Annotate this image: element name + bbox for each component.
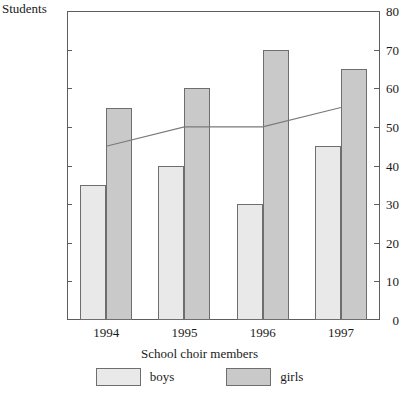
chart-legend: boysgirls bbox=[0, 368, 399, 386]
bar-girls-1996 bbox=[263, 50, 289, 320]
y-tick-mark bbox=[374, 11, 379, 12]
bar-girls-1997 bbox=[341, 69, 367, 320]
y-tick-mark bbox=[374, 281, 379, 282]
legend-entry-girls: girls bbox=[226, 368, 303, 386]
legend-label-boys: boys bbox=[150, 370, 175, 384]
bar-boys-1995 bbox=[158, 166, 184, 321]
bar-girls-1995 bbox=[184, 88, 210, 320]
x-tick-label-1995: 1995 bbox=[171, 326, 197, 340]
y-tick-mark bbox=[374, 166, 379, 167]
legend-swatch-girls bbox=[226, 368, 271, 386]
y-tick-mark bbox=[374, 88, 379, 89]
y-tick-mark bbox=[374, 127, 379, 128]
y-tick-mark bbox=[67, 204, 72, 205]
y-axis-title: Students bbox=[2, 2, 47, 16]
legend-swatch-boys bbox=[96, 368, 141, 386]
y-tick-mark bbox=[374, 50, 379, 51]
bar-girls-1994 bbox=[106, 108, 132, 320]
y-tick-mark bbox=[67, 127, 72, 128]
x-tick-label-1997: 1997 bbox=[328, 326, 354, 340]
y-tick-mark bbox=[67, 11, 72, 12]
y-tick-mark bbox=[67, 166, 72, 167]
bar-boys-1996 bbox=[237, 204, 263, 320]
bar-boys-1997 bbox=[315, 146, 341, 320]
legend-label-girls: girls bbox=[280, 370, 303, 384]
x-tick-label-1994: 1994 bbox=[93, 326, 119, 340]
legend-entry-boys: boys bbox=[96, 368, 175, 386]
y-tick-mark bbox=[374, 204, 379, 205]
bar-chart: Students 01020304050607080 1994199519961… bbox=[0, 0, 399, 396]
bar-boys-1994 bbox=[80, 185, 106, 320]
x-tick-label-1996: 1996 bbox=[250, 326, 276, 340]
y-tick-mark bbox=[374, 243, 379, 244]
y-tick-mark bbox=[67, 50, 72, 51]
y-tick-mark bbox=[67, 88, 72, 89]
y-tick-mark bbox=[67, 243, 72, 244]
y-tick-mark bbox=[67, 281, 72, 282]
x-axis-title: School choir members bbox=[0, 347, 399, 361]
